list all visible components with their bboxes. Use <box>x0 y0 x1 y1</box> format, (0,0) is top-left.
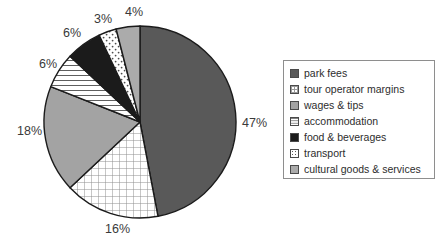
legend-item-label: transport <box>304 147 345 159</box>
legend-item[interactable]: park fees <box>290 65 434 81</box>
pie-value-label: 47% <box>242 116 267 130</box>
pie-value-label: 3% <box>94 12 112 26</box>
legend-item[interactable]: transport <box>290 145 434 161</box>
pie-svg <box>0 0 283 244</box>
legend-item[interactable]: cultural goods & services <box>290 161 434 177</box>
pie-chart-plot-area: 47%16%18%6%6%3%4% <box>0 0 283 244</box>
legend-swatch-icon <box>290 85 299 94</box>
pie-value-label: 4% <box>125 5 143 19</box>
pie-value-label: 6% <box>63 26 81 40</box>
pie-value-label: 18% <box>17 124 42 138</box>
pie-chart-figure: 47%16%18%6%6%3%4% park feestour operator… <box>0 0 438 244</box>
legend-item-label: accommodation <box>304 115 378 127</box>
legend-item-label: wages & tips <box>304 99 364 111</box>
pie-slice[interactable] <box>140 26 236 216</box>
legend-item[interactable]: tour operator margins <box>290 81 434 97</box>
pie-slices <box>44 26 236 218</box>
legend-rows: park feestour operator marginswages & ti… <box>290 65 434 177</box>
legend-swatch-icon <box>290 133 299 142</box>
legend-item-label: park fees <box>304 67 347 79</box>
legend-item[interactable]: accommodation <box>290 113 434 129</box>
legend-swatch-icon <box>290 149 299 158</box>
legend-item-label: tour operator margins <box>304 83 404 95</box>
legend-item-label: cultural goods & services <box>304 163 421 175</box>
pie-value-label: 16% <box>105 222 130 236</box>
legend-swatch-icon <box>290 165 299 174</box>
legend-swatch-icon <box>290 101 299 110</box>
legend-item-label: food & beverages <box>304 131 386 143</box>
pie-value-label: 6% <box>39 57 57 71</box>
chart-legend: park feestour operator marginswages & ti… <box>283 60 435 179</box>
legend-item[interactable]: wages & tips <box>290 97 434 113</box>
legend-swatch-icon <box>290 117 299 126</box>
legend-swatch-icon <box>290 69 299 78</box>
legend-item[interactable]: food & beverages <box>290 129 434 145</box>
